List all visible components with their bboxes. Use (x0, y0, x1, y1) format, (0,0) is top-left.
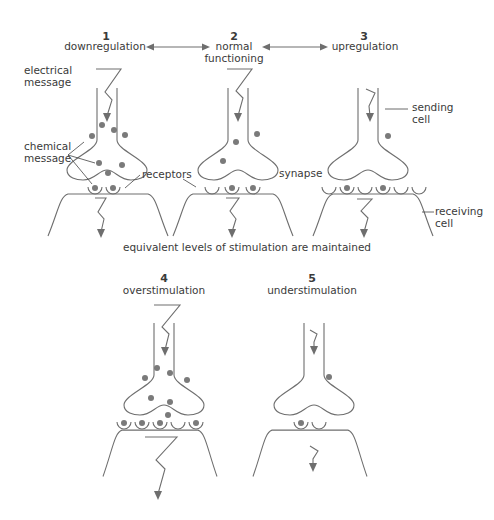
neurotransmitter-regulation-diagram: 1 downregulation 2 normal functioning 3 … (0, 0, 494, 520)
svg-text:cell: cell (435, 217, 453, 229)
chemical-message-callout: chemical message (24, 140, 95, 184)
neurotransmitter-dot (326, 374, 332, 380)
panel-5-sending-cell (274, 323, 354, 415)
panel-1-label: downregulation (64, 40, 146, 52)
electrical-signal-icon (145, 437, 177, 500)
receiving-cell-callout: receiving cell (422, 205, 483, 229)
neurotransmitter-dots (220, 131, 260, 164)
panel-3-receptors (322, 185, 426, 194)
electrical-signal-icon (309, 446, 318, 472)
electrical-signal-icon (154, 305, 180, 356)
panel-2-receptors (205, 185, 260, 194)
panel-2-label-line1: normal (216, 40, 253, 52)
svg-text:sending: sending (412, 101, 454, 113)
panel-4-sending-cell (124, 323, 204, 415)
svg-text:chemical: chemical (24, 140, 71, 152)
panel-5-receiving-cell (253, 430, 367, 476)
svg-text:receiving: receiving (435, 205, 483, 217)
electrical-signal-icon (226, 198, 239, 238)
panel-5-receptors (294, 420, 326, 429)
panel-1-sending-cell (67, 88, 147, 180)
panel-5-header: 5 understimulation (267, 272, 357, 296)
panel-4-receptors (117, 420, 203, 429)
receptors-callout: receptors (125, 168, 196, 188)
svg-text:receptors: receptors (142, 168, 192, 180)
panel-3-header: 3 upregulation (332, 30, 399, 52)
double-arrow-icon (262, 44, 328, 51)
panel-3-label: upregulation (332, 40, 399, 52)
electrical-signal-icon (95, 198, 106, 238)
panel-1-receiving-cell (48, 194, 168, 236)
panel-4-header: 4 overstimulation (123, 272, 205, 296)
panel-5-label: understimulation (267, 284, 357, 296)
electrical-signal-icon (357, 199, 372, 238)
electrical-signal-icon (310, 330, 318, 355)
svg-text:message: message (24, 152, 71, 164)
panel-2-sending-cell (198, 88, 278, 180)
double-arrow-icon (146, 44, 210, 51)
svg-text:electrical: electrical (24, 64, 72, 76)
svg-text:message: message (24, 76, 71, 88)
electrical-message-callout: electrical message (24, 64, 72, 88)
svg-text:cell: cell (412, 113, 430, 125)
panel-1-header: 1 downregulation (64, 30, 146, 52)
panel-1-receptors (88, 185, 120, 194)
neurotransmitter-dots (142, 365, 190, 418)
panel-2-header: 2 normal functioning (204, 30, 263, 64)
neurotransmitter-dot (385, 133, 391, 139)
panel-2-label-line2: functioning (204, 52, 263, 64)
panel-4-label: overstimulation (123, 284, 205, 296)
panel-3-sending-cell (328, 88, 408, 180)
electrical-signal-icon (366, 89, 375, 122)
sending-cell-callout: sending cell (385, 101, 454, 125)
synapse-label: synapse (279, 167, 322, 179)
panel-3-receiving-cell (313, 194, 433, 236)
neurotransmitter-dots (89, 122, 128, 176)
caption: equivalent levels of stimulation are mai… (123, 241, 371, 253)
